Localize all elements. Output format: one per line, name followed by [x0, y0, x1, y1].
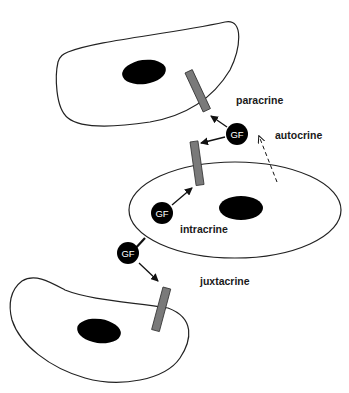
bottom-cell [10, 278, 189, 382]
growth-factor-label: GF [155, 208, 168, 219]
top-cell [56, 22, 238, 126]
label-juxtacrine: juxtacrine [199, 275, 250, 287]
paracrine-arrow [211, 116, 227, 127]
growth-factor-1: GF [226, 123, 248, 145]
growth-factor-3: GF [117, 242, 139, 264]
autocrine-dashed-arrow [259, 136, 277, 182]
middle-cell-nucleus [219, 196, 263, 220]
top-cell-receptor [185, 70, 210, 112]
label-autocrine: autocrine [275, 129, 322, 141]
intracrine-arrow [172, 188, 192, 205]
top-cell-nucleus [121, 57, 168, 87]
bottom-cell-receptor [152, 287, 171, 332]
label-intracrine: intracrine [180, 223, 228, 235]
middle-cell [129, 141, 341, 258]
autocrine-receptor-arrow [201, 137, 225, 143]
growth-factor-label: GF [230, 129, 243, 140]
bottom-cell-nucleus [76, 316, 123, 346]
middle-cell-receptor [190, 141, 204, 186]
growth-factor-label: GF [121, 248, 134, 259]
juxtacrine-arrow [139, 263, 158, 281]
growth-factor-2: GF [151, 202, 173, 224]
growth-factor-signaling-diagram: GF GF GF paracrine autocrine intracrine … [0, 0, 349, 393]
label-paracrine: paracrine [236, 94, 283, 106]
